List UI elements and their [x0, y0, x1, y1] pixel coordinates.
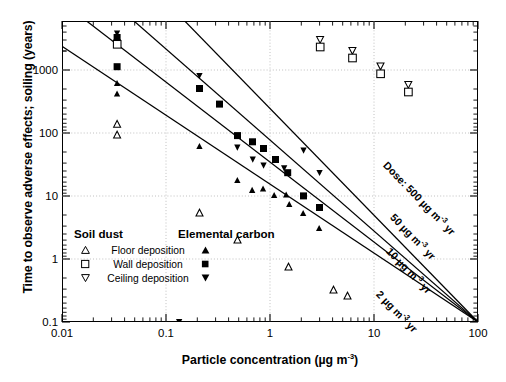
- legend-label-wall: Wall deposition: [96, 259, 200, 270]
- x-tick-1: 1: [267, 327, 273, 339]
- legend-header-row: Soil dust Elemental carbon: [74, 227, 279, 240]
- x-tick-10: 10: [368, 327, 381, 339]
- legend-row-ceiling: Ceiling deposition: [74, 271, 279, 285]
- open-square-icon: [74, 259, 96, 269]
- x-axis-title: Particle concentration (µg m-3): [62, 352, 478, 367]
- x-axis-title-main: Particle concentration (µg m: [182, 353, 348, 367]
- series-soil-ceiling-markers: [317, 36, 412, 88]
- x-axis-title-end: ): [354, 353, 358, 367]
- filled-triangle-up-icon: [200, 245, 222, 255]
- chart-canvas: [0, 0, 506, 382]
- chart-figure: 1000 100 10 1 0.1 0.01 0.1 1 10 100 Time…: [0, 0, 506, 382]
- filled-triangle-down-icon: [200, 273, 222, 283]
- chart-legend: Soil dust Elemental carbon Floor deposit…: [74, 227, 279, 285]
- legend-label-floor: Floor deposition: [96, 245, 200, 256]
- x-tick-0.1: 0.1: [158, 327, 174, 339]
- y-axis-title: Time to observe adverse effects; soiling…: [21, 7, 35, 307]
- x-tick-0.01: 0.01: [51, 327, 73, 339]
- legend-title-soil-dust: Soil dust: [74, 227, 178, 240]
- legend-label-ceiling: Ceiling deposition: [96, 273, 200, 284]
- legend-row-wall: Wall deposition: [74, 257, 279, 271]
- x-axis-tick-labels: 0.01 0.1 1 10 100: [0, 327, 506, 345]
- x-tick-100: 100: [468, 327, 487, 339]
- legend-row-floor: Floor deposition: [74, 243, 279, 257]
- legend-title-elemental-carbon: Elemental carbon: [178, 227, 275, 240]
- series-soil-wall-markers: [113, 41, 412, 96]
- filled-square-icon: [200, 259, 222, 269]
- open-triangle-up-icon: [74, 245, 96, 255]
- open-triangle-down-icon: [74, 273, 96, 283]
